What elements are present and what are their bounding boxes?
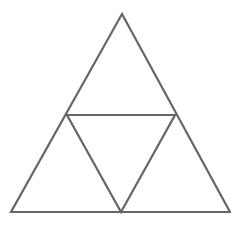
inner-inverted-triangle	[67, 115, 175, 212]
triangle-diagram	[0, 0, 231, 236]
diagram-canvas	[0, 0, 231, 236]
outer-triangle	[11, 14, 230, 212]
